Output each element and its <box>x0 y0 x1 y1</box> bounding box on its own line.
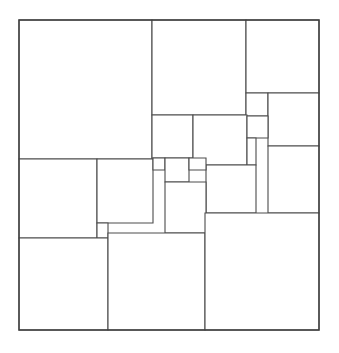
square-k <box>206 165 256 213</box>
square-u <box>205 213 319 330</box>
square-t <box>108 233 205 330</box>
square-a <box>19 20 152 159</box>
square-i <box>247 138 256 165</box>
square-h <box>247 116 268 138</box>
square-s <box>19 238 108 330</box>
square-c <box>246 20 319 93</box>
square-b <box>152 20 246 115</box>
squared-square-figure <box>0 0 339 353</box>
square-d <box>246 93 268 116</box>
dissection-drawing <box>0 0 339 353</box>
square-n <box>153 158 165 170</box>
square-o <box>165 158 189 182</box>
square-l <box>19 159 97 238</box>
square-e <box>268 93 319 146</box>
inner-squares-layer <box>19 20 319 330</box>
square-p <box>189 158 206 170</box>
square-m <box>97 159 153 223</box>
square-f <box>152 115 193 158</box>
square-r <box>97 223 108 238</box>
square-j <box>268 146 319 213</box>
square-q <box>165 182 206 233</box>
